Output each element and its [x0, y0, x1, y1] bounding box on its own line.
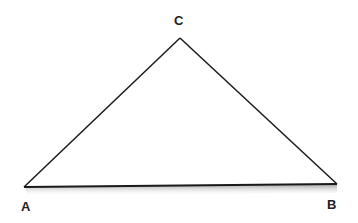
vertex-label-b: B: [327, 197, 336, 212]
vertex-label-a: A: [21, 199, 31, 214]
side-cb: [180, 38, 337, 184]
triangle-diagram: A B C: [0, 0, 358, 223]
vertex-label-c: C: [174, 13, 184, 28]
side-ac: [24, 38, 180, 187]
